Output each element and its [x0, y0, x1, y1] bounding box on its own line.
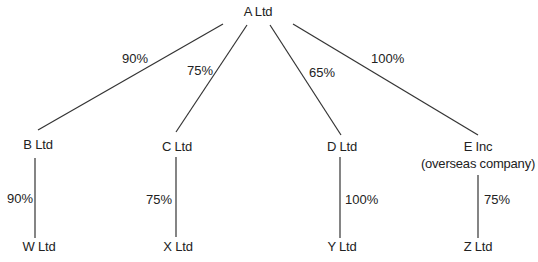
- ownership-a-b: 90%: [122, 51, 148, 66]
- node-e-inc-note: (overseas company): [421, 156, 535, 171]
- node-d-ltd: D Ltd: [327, 139, 357, 154]
- node-c-ltd: C Ltd: [162, 139, 192, 154]
- ownership-a-c: 75%: [187, 63, 213, 78]
- edge-a-d: [270, 25, 341, 135]
- node-a-ltd: A Ltd: [244, 4, 273, 19]
- node-b-ltd: B Ltd: [23, 137, 52, 152]
- ownership-b-w: 90%: [7, 191, 33, 206]
- connector-lines: [0, 0, 538, 262]
- edge-a-c: [176, 25, 247, 132]
- node-x-ltd: X Ltd: [163, 239, 192, 254]
- ownership-a-e: 100%: [371, 51, 404, 66]
- ownership-a-d: 65%: [309, 65, 335, 80]
- node-z-ltd: Z Ltd: [464, 239, 493, 254]
- ownership-c-x: 75%: [146, 192, 172, 207]
- node-w-ltd: W Ltd: [23, 239, 56, 254]
- node-y-ltd: Y Ltd: [327, 239, 356, 254]
- ownership-e-z: 75%: [484, 192, 510, 207]
- node-e-inc: E Inc: [464, 139, 493, 154]
- ownership-d-y: 100%: [345, 192, 378, 207]
